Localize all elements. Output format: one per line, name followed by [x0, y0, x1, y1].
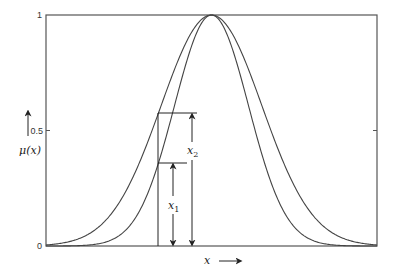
y-tick-label-0.5: 0.5: [30, 126, 43, 136]
curve-wide: [46, 15, 377, 245]
y-tick-label-1: 1: [37, 10, 42, 20]
x1-label: x1: [168, 199, 179, 214]
curve-narrow: [46, 15, 377, 246]
y-tick-label-0: 0: [37, 241, 42, 251]
plot-frame: [46, 15, 377, 246]
y-axis-label: μ(x): [19, 144, 41, 157]
membership-function-chart: 1 0.5 0 x1 x2 μ(x) x: [0, 0, 395, 278]
x2-label: x2: [187, 144, 198, 159]
x-annotations: [158, 113, 197, 246]
x-axis-label: x: [204, 254, 211, 267]
y-axis: 1 0.5 0: [30, 10, 377, 251]
